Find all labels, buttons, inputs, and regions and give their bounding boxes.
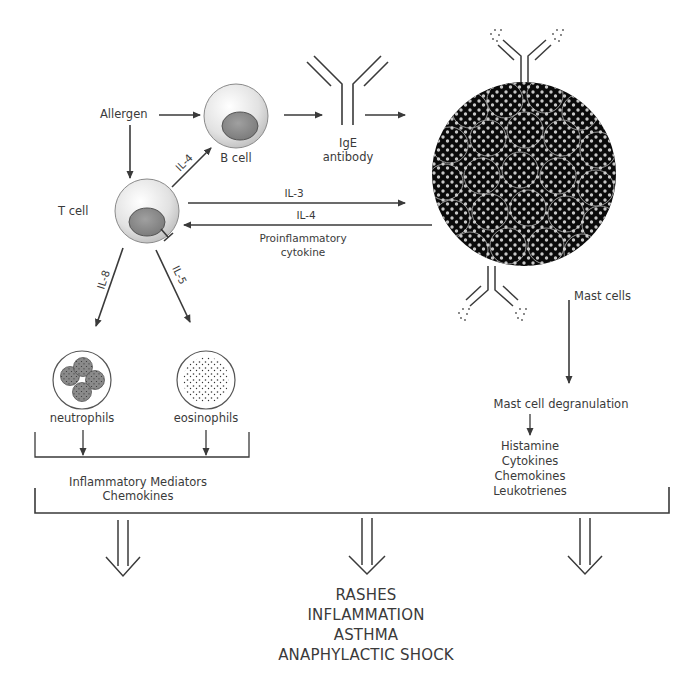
mast-cell-cluster: [427, 77, 618, 270]
ige-antibody: IgE antibody: [307, 56, 388, 164]
allergen-node: Allergen: [100, 107, 148, 121]
neutrophils-label: neutrophils: [50, 411, 115, 425]
mediator-chemokines: Chemokines: [495, 469, 566, 483]
eosinophils-label: eosinophils: [174, 411, 239, 425]
allergy-pathway-diagram: Allergen B cell IgE antibody T cell IL-4: [0, 0, 697, 685]
allergen-particles-bottom-icon: [458, 308, 527, 321]
ige-label-line2: antibody: [323, 150, 374, 164]
ige-label-line1: IgE: [339, 136, 357, 150]
mast-degranulation-label: Mast cell degranulation: [494, 397, 629, 411]
allergen-particles-top-icon: [490, 29, 564, 42]
t-cell: T cell: [57, 179, 179, 243]
cell-bracket: [35, 432, 249, 457]
b-cell-nucleus-icon: [222, 112, 258, 140]
il4-label-tcell-bcell: IL-4: [173, 151, 195, 173]
mediator-cytokines: Cytokines: [502, 454, 559, 468]
mediators-left-line1: Inflammatory Mediators: [69, 475, 207, 489]
il5-label: IL-5: [170, 264, 189, 287]
b-cell: B cell: [204, 84, 268, 165]
outcome-inflammation: INFLAMMATION: [307, 606, 424, 624]
outcome-asthma: ASTHMA: [334, 626, 399, 644]
neutrophils: neutrophils: [50, 351, 115, 425]
il3-label: IL-3: [284, 187, 303, 199]
arrow-il5-tcell-to-eosinophils: [156, 250, 190, 322]
outcome-rashes: RASHES: [335, 586, 396, 604]
il4-label-mast-tcell: IL-4: [296, 209, 316, 221]
b-cell-label: B cell: [220, 151, 251, 165]
t-cell-nucleus-icon: [129, 208, 165, 236]
eosinophil-granules-icon: [183, 357, 229, 403]
proinflammatory-label-line1: Proinflammatory: [259, 232, 346, 244]
double-arrow-left-icon: [106, 520, 140, 576]
double-arrow-center-icon: [349, 518, 385, 574]
mast-granules-icon: [432, 82, 616, 266]
proinflammatory-label-line2: cytokine: [281, 246, 326, 258]
mediator-histamine: Histamine: [501, 439, 559, 453]
mast-ige-top: [498, 40, 551, 82]
eosinophils: eosinophils: [174, 351, 239, 425]
t-cell-label: T cell: [57, 204, 88, 218]
mediator-leukotrienes: Leukotrienes: [493, 484, 567, 498]
double-arrow-right-icon: [568, 518, 602, 574]
outcome-anaphylactic-shock: ANAPHYLACTIC SHOCK: [278, 646, 455, 664]
mediators-left-line2: Chemokines: [103, 489, 174, 503]
mast-cells-label: Mast cells: [574, 289, 631, 303]
allergen-label: Allergen: [100, 107, 148, 121]
mast-ige-bottom: [466, 266, 518, 306]
